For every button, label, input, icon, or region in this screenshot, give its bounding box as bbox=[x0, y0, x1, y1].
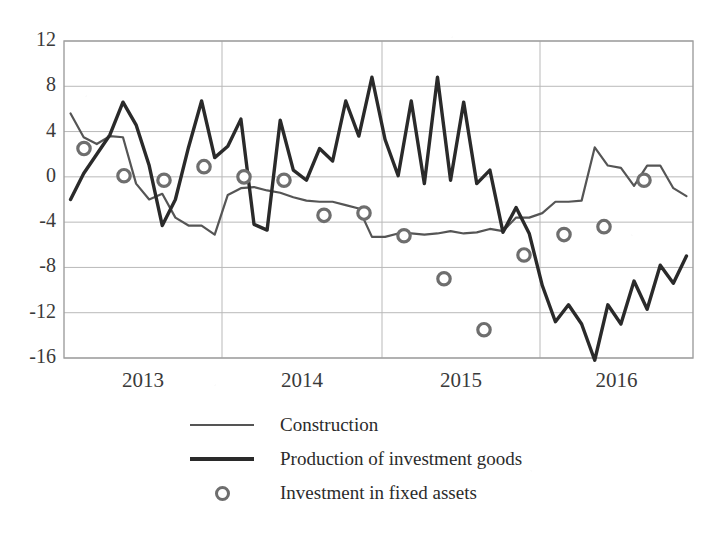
x-axis-year-2013: 2013 bbox=[98, 368, 188, 393]
x-axis-year-2015: 2015 bbox=[416, 368, 506, 393]
legend-label-construction: Construction bbox=[264, 414, 378, 436]
y-axis-tick-3: 0 bbox=[8, 164, 56, 187]
legend-label-production: Production of investment goods bbox=[264, 448, 522, 470]
legend-item-construction: Construction bbox=[180, 408, 600, 442]
y-axis-tick-7: -16 bbox=[8, 345, 56, 368]
y-axis-tick-5: -8 bbox=[8, 254, 56, 277]
legend-item-production: Production of investment goods bbox=[180, 442, 600, 476]
y-axis-tick-1: 8 bbox=[8, 73, 56, 96]
x-axis-year-2014: 2014 bbox=[257, 368, 347, 393]
legend-circle-marker-icon bbox=[180, 476, 264, 510]
y-axis-tick-0: 12 bbox=[8, 28, 56, 51]
x-axis-year-2016: 2016 bbox=[572, 368, 662, 393]
y-axis-tick-2: 4 bbox=[8, 119, 56, 142]
legend-item-investment: Investment in fixed assets bbox=[180, 476, 600, 510]
chart-legend: Construction Production of investment go… bbox=[180, 408, 600, 510]
legend-line-thin-icon bbox=[180, 408, 264, 442]
legend-label-investment: Investment in fixed assets bbox=[264, 482, 477, 504]
legend-line-thick-icon bbox=[180, 442, 264, 476]
y-axis-tick-6: -12 bbox=[8, 300, 56, 323]
y-axis-tick-4: -4 bbox=[8, 209, 56, 232]
